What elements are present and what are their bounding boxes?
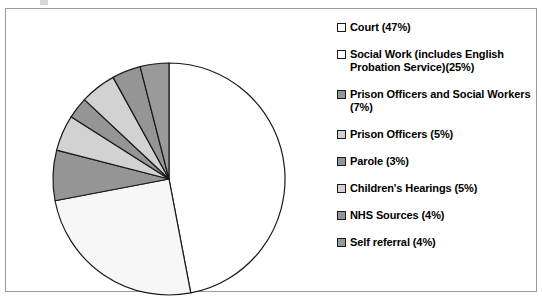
legend-item-childrens-hearings[interactable]: Children's Hearings (5%)	[337, 182, 537, 195]
legend-label-prison-officers-and-social-workers: Prison Officers and Social Workers (7%)	[350, 88, 537, 114]
legend-item-social-work[interactable]: Social Work (includes English Probation …	[337, 48, 537, 74]
pie-chart-svg	[6, 9, 316, 302]
scan-artifact	[40, 0, 48, 5]
legend-label-prison-officers: Prison Officers (5%)	[350, 128, 453, 141]
figure-frame: Court (47%) Social Work (includes Englis…	[5, 8, 537, 292]
legend-item-prison-officers-and-social-workers[interactable]: Prison Officers and Social Workers (7%)	[337, 88, 537, 114]
legend-item-nhs-sources[interactable]: NHS Sources (4%)	[337, 209, 537, 222]
legend-item-parole[interactable]: Parole (3%)	[337, 155, 537, 168]
legend-label-nhs-sources: NHS Sources (4%)	[350, 209, 444, 222]
pie-slice-court[interactable]	[169, 63, 285, 293]
legend-swatch-prison-officers-and-social-workers	[337, 90, 346, 99]
legend-label-parole: Parole (3%)	[350, 155, 409, 168]
legend-swatch-childrens-hearings	[337, 184, 346, 193]
legend-label-court: Court (47%)	[350, 21, 411, 34]
legend-label-self-referral: Self referral (4%)	[350, 236, 436, 249]
legend-swatch-social-work	[337, 50, 346, 59]
legend-swatch-parole	[337, 157, 346, 166]
legend-item-court[interactable]: Court (47%)	[337, 21, 537, 34]
legend-swatch-court	[337, 23, 346, 32]
legend-swatch-prison-officers	[337, 130, 346, 139]
legend-item-prison-officers[interactable]: Prison Officers (5%)	[337, 128, 537, 141]
legend-item-self-referral[interactable]: Self referral (4%)	[337, 236, 537, 249]
pie-slices	[53, 63, 285, 295]
pie-chart-area	[6, 9, 316, 302]
legend-label-social-work: Social Work (includes English Probation …	[350, 48, 537, 74]
legend-swatch-nhs-sources	[337, 211, 346, 220]
legend-swatch-self-referral	[337, 238, 346, 247]
legend-label-childrens-hearings: Children's Hearings (5%)	[350, 182, 477, 195]
chart-legend: Court (47%) Social Work (includes Englis…	[337, 21, 537, 263]
